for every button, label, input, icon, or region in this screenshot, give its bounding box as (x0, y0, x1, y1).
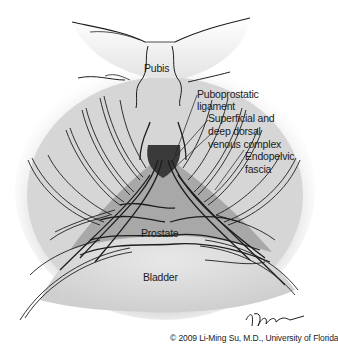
label-dorsal-venous-complex-3: venous complex (208, 139, 281, 150)
label-puboprostatic-ligament-2: ligament (197, 101, 235, 112)
label-endopelvic-fascia-2: fascia (245, 164, 271, 175)
label-dorsal-venous-complex-2: deep dorsal (208, 126, 261, 137)
label-bladder: Bladder (143, 272, 178, 283)
signature-mark (246, 314, 304, 326)
label-puboprostatic-ligament-1: Puboprostatic (197, 89, 259, 100)
label-endopelvic-fascia-1: Endopelvic (245, 151, 294, 162)
label-dorsal-venous-complex-1: Superficial and (208, 113, 274, 124)
label-pubis: Pubis (144, 63, 169, 74)
label-prostate: Prostate (141, 228, 179, 239)
copyright-notice: © 2009 Li-Ming Su, M.D., University of F… (170, 333, 338, 343)
